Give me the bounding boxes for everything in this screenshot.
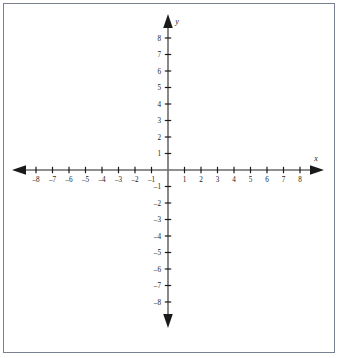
y-axis-top-arrow-icon [163,14,173,28]
y-tick-label-1: 1 [157,150,161,158]
y-tick-label--2: –2 [153,200,162,208]
x-tick-label-8: 8 [298,176,302,184]
y-tick-label-4: 4 [157,101,161,109]
x-tick-label--5: –5 [81,176,90,184]
y-tick-label--7: –7 [153,282,162,290]
y-tick-label-3: 3 [157,117,161,125]
x-axis-tick-labels: –8 –7 –6 –5 –4 –3 –2 –1 1 2 3 4 5 6 7 8 [31,176,302,184]
x-tick-label--2: –2 [130,176,139,184]
y-tick-label--4: –4 [153,233,162,241]
x-axis-label: x [313,154,318,163]
y-axis-bottom-arrow-icon [163,314,173,328]
y-tick-label-8: 8 [157,35,161,43]
x-tick-label--4: –4 [97,176,106,184]
x-tick-label-1: 1 [183,176,187,184]
x-tick-label--8: –8 [31,176,40,184]
y-tick-label--6: –6 [153,266,162,274]
y-tick-label-5: 5 [157,84,161,92]
axis-name-labels: x y [174,17,318,163]
y-tick-label--5: –5 [153,249,162,257]
y-tick-label--1: –1 [153,183,162,191]
x-tick-label-3: 3 [216,176,220,184]
y-tick-label-6: 6 [157,68,161,76]
x-tick-label-6: 6 [265,176,269,184]
y-tick-label-2: 2 [157,134,161,142]
x-tick-label--7: –7 [48,176,57,184]
x-axis-right-arrow-icon [310,165,324,175]
x-tick-label--3: –3 [114,176,123,184]
y-tick-label-7: 7 [157,51,161,59]
y-axis-label: y [174,17,179,26]
x-tick-label--6: –6 [64,176,73,184]
y-tick-label--3: –3 [153,216,162,224]
x-tick-label-5: 5 [249,176,253,184]
x-axis-left-arrow-icon [12,165,26,175]
x-tick-label-7: 7 [282,176,286,184]
coordinate-plane-canvas: –8 –7 –6 –5 –4 –3 –2 –1 1 2 3 4 5 6 7 8 … [0,0,340,358]
axis-lines [18,20,318,322]
x-tick-label-4: 4 [232,176,236,184]
x-tick-label-2: 2 [199,176,203,184]
y-tick-label--8: –8 [153,299,162,307]
